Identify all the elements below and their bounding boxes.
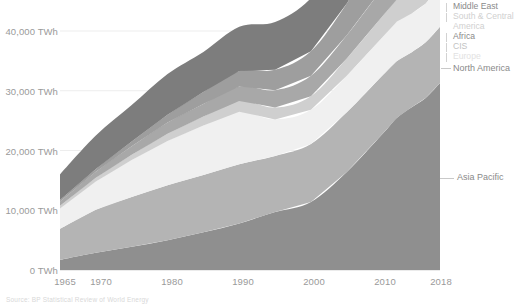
legend-leader-middle-east: [446, 3, 447, 12]
source-note: Source: BP Statistical Review of World E…: [6, 296, 149, 303]
x-tick-label-1990: 1990: [232, 276, 254, 287]
asia-pacific-leader-line: [440, 178, 454, 179]
legend-leader-north-america: [441, 68, 451, 69]
legend-leader-europe: [446, 53, 447, 62]
x-tick-label-2018: 2018: [430, 276, 452, 287]
legend-item-europe[interactable]: Europe: [453, 52, 481, 62]
legend-leader-south-central: [446, 13, 447, 22]
y-tick-label-30000: 30,000 TWh: [5, 86, 58, 97]
plot-area: [0, 0, 520, 304]
legend-item-north-america[interactable]: North America: [453, 64, 510, 74]
y-tick-label-40000: 40,000 TWh: [5, 26, 58, 37]
stacked-area-chart: 40,000 TWh 30,000 TWh 20,000 TWh 10,000 …: [0, 0, 520, 304]
x-tick-label-2000: 2000: [303, 276, 325, 287]
area-bands: [60, 0, 440, 270]
x-tick-label-1970: 1970: [90, 276, 112, 287]
y-tick-label-10000: 10,000 TWh: [5, 205, 58, 216]
legend-item-asia-pacific[interactable]: Asia Pacific: [457, 173, 504, 183]
x-tick-label-1980: 1980: [161, 276, 183, 287]
y-tick-label-0: 0 TWh: [30, 265, 58, 276]
legend-leader-cis: [446, 43, 447, 52]
legend-leader-africa: [446, 33, 447, 42]
x-tick-label-1965: 1965: [54, 276, 76, 287]
y-tick-label-20000: 20,000 TWh: [5, 146, 58, 157]
x-tick-label-2010: 2010: [374, 276, 396, 287]
